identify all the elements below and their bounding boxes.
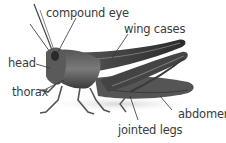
label-head: head xyxy=(8,58,36,70)
label-thorax: thorax xyxy=(12,87,48,99)
leader-compound-eye xyxy=(58,18,76,52)
label-wing-cases: wing cases xyxy=(124,24,185,36)
label-compound-eye: compound eye xyxy=(46,8,129,20)
grasshopper-diagram: compound eye wing cases head thorax abdo… xyxy=(0,0,226,143)
label-jointed-legs: jointed legs xyxy=(118,125,182,137)
grasshopper-illustration xyxy=(0,0,226,143)
compound-eye-icon xyxy=(51,51,59,61)
label-abdomen: abdomen xyxy=(178,109,226,121)
